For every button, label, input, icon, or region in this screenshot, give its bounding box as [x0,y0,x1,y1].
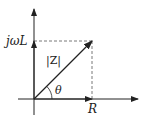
jwl-label: jωL [3,34,28,48]
impedance-diagram: jωL R |Z| θ [0,0,146,125]
theta-label: θ [55,84,62,97]
r-label: R [87,102,97,116]
z-phasor-arrow [34,41,92,99]
theta-arc [47,86,52,99]
magnitude-label: |Z| [46,54,61,68]
